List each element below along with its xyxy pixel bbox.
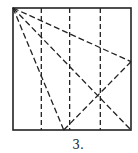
figure-caption: 3. — [0, 138, 138, 152]
diagonal-crease-to-bottom-edge — [13, 8, 64, 130]
crease-lines — [13, 8, 131, 130]
fold-diagram — [0, 0, 138, 153]
diagonal-crease-to-bottom-right — [13, 8, 131, 130]
diagonal-crease-to-right-edge — [13, 8, 131, 62]
